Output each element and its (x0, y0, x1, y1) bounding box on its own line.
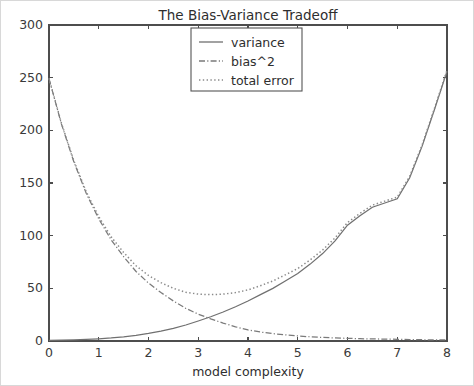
x-tick-label: 5 (294, 345, 302, 360)
x-tick-label: 8 (443, 345, 451, 360)
x-tick-label: 4 (244, 345, 252, 360)
y-tick-label: 200 (19, 122, 43, 137)
legend-label: bias^2 (231, 54, 275, 69)
y-tick-label: 300 (19, 17, 43, 32)
series-path-variance (49, 71, 447, 340)
plot-area: 012345678 050100150200250300 The Bias-Va… (1, 1, 474, 386)
x-tick-label: 2 (145, 345, 153, 360)
legend-label: variance (231, 35, 285, 50)
x-axis-label: model complexity (192, 364, 304, 379)
y-tick-label: 250 (19, 70, 43, 85)
x-tick-label: 0 (45, 345, 53, 360)
series-path-total-error (49, 70, 447, 294)
chart-legend: variancebias^2total error (191, 28, 302, 91)
legend-label: total error (231, 73, 295, 88)
x-tick-label: 3 (194, 345, 202, 360)
y-tick-label: 150 (19, 175, 43, 190)
chart-title: The Bias-Variance Tradeoff (158, 7, 339, 23)
series-group (49, 70, 447, 340)
chart-figure: 012345678 050100150200250300 The Bias-Va… (0, 0, 474, 386)
y-tick-label: 50 (27, 280, 43, 295)
y-tick-label: 0 (35, 333, 43, 348)
x-tick-label: 6 (344, 345, 352, 360)
y-tick-label: 100 (19, 228, 43, 243)
x-tick-label: 1 (95, 345, 103, 360)
x-tick-label: 7 (393, 345, 401, 360)
